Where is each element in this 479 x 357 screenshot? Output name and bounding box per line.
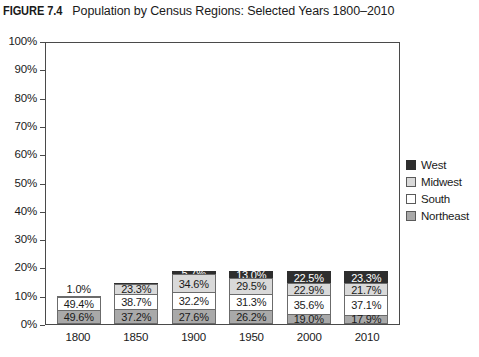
y-tick-label: 20% <box>15 260 37 275</box>
y-tick-label: 60% <box>15 147 37 162</box>
bar-column-1800[interactable]: 1.0% 49.4% 49.6% <box>57 43 101 324</box>
bar-segment-midwest[interactable]: 29.5% <box>229 278 273 294</box>
bar-segment-label: 37.1% <box>351 299 381 311</box>
bar-segment-label: 0.8% <box>124 270 148 282</box>
bar-segment-label: 31.3% <box>236 296 266 308</box>
legend: West Midwest South Northeast <box>406 156 478 224</box>
bar-segment-label: 26.2% <box>236 311 266 323</box>
bar-segment-south[interactable]: 37.1% <box>344 295 388 315</box>
figure-number: FIGURE 7.4 <box>3 3 62 19</box>
figure-title: FIGURE 7.4Population by Census Regions: … <box>3 3 473 21</box>
bar-segment-northeast[interactable]: 26.2% <box>229 310 273 324</box>
bar-stack: 5.7% 34.6% 32.2% 27.6% <box>172 271 216 324</box>
bar-segment-west[interactable]: 13.0% <box>229 271 273 278</box>
bar-stack: 23.3% 21.7% 37.1% 17.9% <box>344 271 388 324</box>
legend-label: West <box>421 158 446 172</box>
bar-segment-label: 35.6% <box>294 299 324 311</box>
x-tick-label: 2010 <box>345 326 389 345</box>
bar-column-1850[interactable]: 0.8% 23.3% 38.7% 37.2% <box>114 43 158 324</box>
y-tick-label: 40% <box>15 204 37 219</box>
bar-stack: 0.8% 23.3% 38.7% 37.2% <box>114 283 158 324</box>
y-tick-label: 70% <box>15 119 37 134</box>
plot-area: 1.0% 49.4% 49.6% 0.8% 23.3% 38 <box>45 42 400 325</box>
bar-segment-west[interactable]: 22.5% <box>287 271 331 283</box>
y-tick-label: 80% <box>15 91 37 106</box>
bar-stack: 13.0% 29.5% 31.3% 26.2% <box>229 271 273 324</box>
bar-column-1950[interactable]: 13.0% 29.5% 31.3% 26.2% <box>229 43 273 324</box>
bars-layer: 1.0% 49.4% 49.6% 0.8% 23.3% 38 <box>46 43 399 324</box>
bar-stack: 22.5% 22.9% 35.6% 19.0% <box>287 271 331 324</box>
bar-column-2000[interactable]: 22.5% 22.9% 35.6% 19.0% <box>287 43 331 324</box>
legend-label: South <box>421 192 450 206</box>
bar-segment-label: 27.6% <box>179 311 209 323</box>
legend-label: Midwest <box>421 175 462 189</box>
bar-segment-label: 1.0% <box>67 283 91 295</box>
bar-segment-label: 17.9% <box>351 313 381 325</box>
bar-segment-label: 34.6% <box>179 278 209 290</box>
bar-segment-northeast[interactable]: 37.2% <box>114 309 158 324</box>
bar-segment-label: 37.2% <box>121 311 151 323</box>
y-tick-label: 90% <box>15 62 37 77</box>
bar-segment-south[interactable]: 32.2% <box>172 292 216 309</box>
bar-segment-label: 22.9% <box>294 284 324 296</box>
y-tick-label: 0% <box>21 317 37 332</box>
bar-segment-label: 19.0% <box>294 313 324 325</box>
bar-segment-label: 23.3% <box>351 272 381 284</box>
x-axis: 1800 1850 1900 1950 2000 2010 <box>45 326 400 350</box>
bar-segment-midwest[interactable]: 22.9% <box>287 283 331 295</box>
figure-caption: Population by Census Regions: Selected Y… <box>72 4 394 18</box>
legend-item-midwest[interactable]: Midwest <box>406 173 478 190</box>
y-tick-label: 100% <box>8 34 37 49</box>
y-tick-label: 10% <box>15 289 37 304</box>
bar-segment-label: 32.2% <box>179 295 209 307</box>
x-tick-label: 2000 <box>287 326 331 345</box>
x-tick-label: 1850 <box>114 326 158 345</box>
bar-segment-midwest[interactable]: 21.7% <box>344 283 388 295</box>
x-tick-label: 1950 <box>229 326 273 345</box>
legend-swatch-icon <box>406 211 416 221</box>
y-axis: 100% 90% 80% 70% 60% 50% 40% 30% 20% 10%… <box>0 42 45 325</box>
legend-swatch-icon <box>406 177 416 187</box>
legend-item-south[interactable]: South <box>406 190 478 207</box>
bar-segment-northeast[interactable]: 17.9% <box>344 315 388 324</box>
legend-item-northeast[interactable]: Northeast <box>406 207 478 224</box>
bar-segment-label: 49.4% <box>64 298 94 310</box>
legend-label: Northeast <box>421 209 469 223</box>
bar-segment-midwest[interactable]: 23.3% <box>114 284 158 294</box>
bar-column-2010[interactable]: 23.3% 21.7% 37.1% 17.9% <box>344 43 388 324</box>
bar-segment-midwest[interactable]: 34.6% <box>172 274 216 292</box>
bar-segment-northeast[interactable]: 27.6% <box>172 309 216 324</box>
bar-segment-south[interactable]: 31.3% <box>229 294 273 311</box>
bar-segment-west[interactable]: 23.3% <box>344 271 388 283</box>
bar-segment-label: 49.6% <box>64 311 94 323</box>
legend-swatch-icon <box>406 160 416 170</box>
legend-item-west[interactable]: West <box>406 156 478 173</box>
bar-segment-label: 22.5% <box>294 272 324 284</box>
x-tick-label: 1800 <box>56 326 100 345</box>
bar-segment-south[interactable]: 38.7% <box>114 294 158 310</box>
bar-segment-northeast[interactable]: 49.6% <box>57 310 101 324</box>
bar-segment-northeast[interactable]: 19.0% <box>287 314 331 324</box>
bar-segment-label: 21.7% <box>351 284 381 296</box>
bar-segment-label: 29.5% <box>236 280 266 292</box>
bar-stack: 1.0% 49.4% 49.6% <box>57 296 101 324</box>
y-tick-label: 30% <box>15 232 37 247</box>
legend-swatch-icon <box>406 194 416 204</box>
bar-segment-south[interactable]: 35.6% <box>287 295 331 314</box>
bar-column-1900[interactable]: 5.7% 34.6% 32.2% 27.6% <box>172 43 216 324</box>
x-tick-label: 1900 <box>172 326 216 345</box>
y-tick-label: 50% <box>15 176 37 191</box>
bar-segment-south[interactable]: 49.4% <box>57 297 101 310</box>
bar-segment-label: 38.7% <box>121 296 151 308</box>
